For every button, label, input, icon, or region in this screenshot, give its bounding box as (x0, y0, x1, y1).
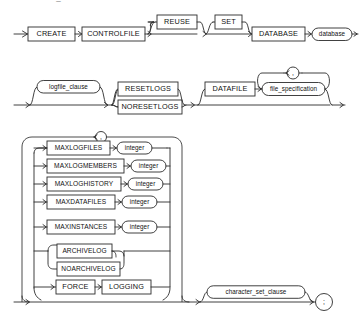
label-noarchivelog: NOARCHIVELOG (61, 265, 115, 272)
label-controlfile: CONTROLFILE (87, 29, 140, 38)
label-maxdatafiles-arg: integer (130, 198, 150, 206)
label-database-kw: DATABASE (259, 29, 298, 38)
label-maxlogfiles-arg: integer (125, 144, 145, 152)
syntax-diagram-canvas: CREATE CONTROLFILE REUSE SET DATABASE da… (0, 0, 359, 319)
label-resetlogs: RESETLOGS (125, 84, 171, 93)
entry-arrow (14, 31, 28, 37)
label-character-set-clause: character_set_clause (226, 288, 287, 296)
label-comma-datafile: , (292, 69, 294, 76)
label-comma-options: , (100, 133, 102, 140)
label-maxlogmembers: MAXLOGMEMBERS (54, 162, 117, 169)
label-maxlogfiles: MAXLOGFILES (55, 144, 103, 151)
label-file-specification: file_specification (270, 85, 318, 93)
label-maxloghistory: MAXLOGHISTORY (55, 180, 114, 187)
label-logfile-clause: logfile_clause (49, 83, 88, 91)
label-maxloghistory-arg: integer (136, 180, 156, 188)
label-maxinstances: MAXINSTANCES (55, 223, 108, 230)
label-maxlogmembers-arg: integer (139, 162, 159, 170)
railroad-diagram: create_controlfile::= (0, 0, 359, 319)
label-datafile: DATAFILE (213, 84, 248, 93)
label-database-var: database (319, 30, 346, 37)
label-archivelog: ARCHIVELOG (62, 247, 106, 254)
label-set: SET (221, 17, 236, 26)
option-force-logging (34, 280, 170, 294)
label-maxinstances-arg: integer (130, 223, 150, 231)
label-noresetlogs: NORESETLOGS (121, 102, 178, 111)
label-semicolon: ; (323, 298, 325, 305)
label-force: FORCE (62, 282, 88, 291)
label-maxdatafiles: MAXDATAFILES (56, 198, 107, 205)
label-reuse: REUSE (164, 17, 190, 26)
label-logging: LOGGING (109, 282, 144, 291)
label-create: CREATE (37, 29, 67, 38)
